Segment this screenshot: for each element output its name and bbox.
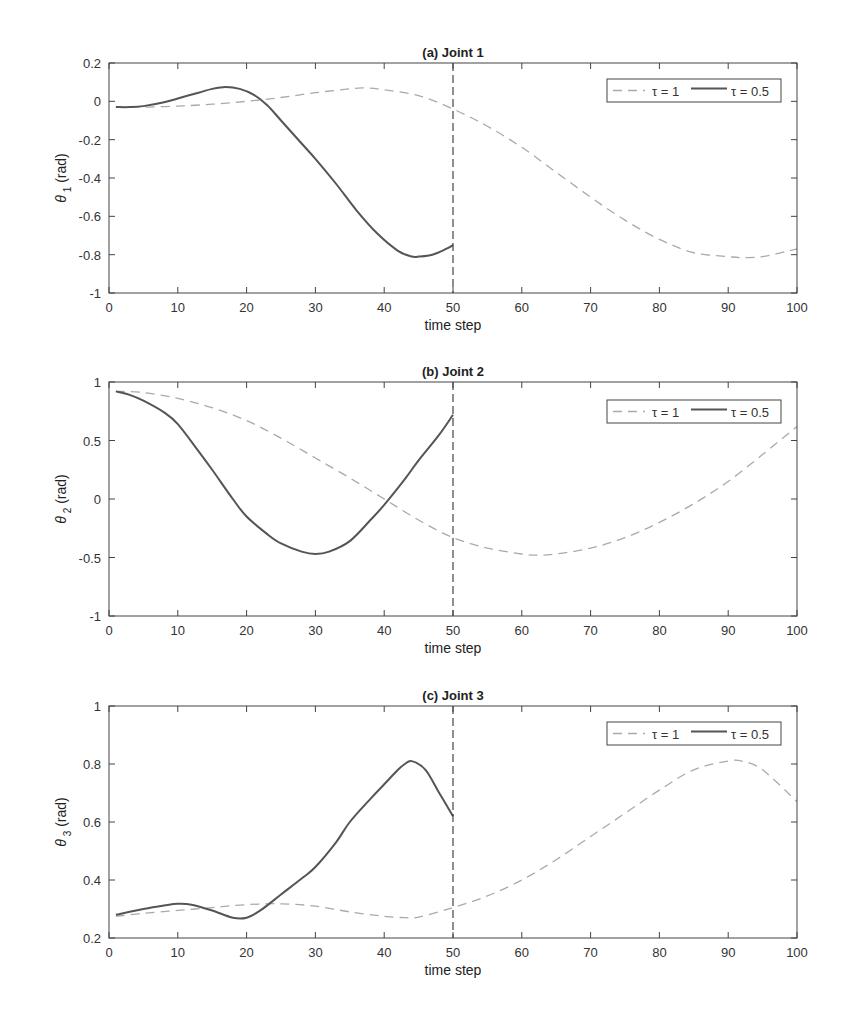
x-tick-label: 50 bbox=[446, 945, 460, 960]
x-tick-label: 70 bbox=[583, 623, 597, 638]
legend-label-tau-0.5: τ = 0.5 bbox=[731, 727, 769, 742]
y-tick-label: -0.2 bbox=[79, 133, 101, 148]
x-tick-label: 40 bbox=[377, 945, 391, 960]
series-tau-0.5-line bbox=[116, 761, 453, 919]
y-tick-label: -0.4 bbox=[79, 171, 101, 186]
y-tick-label: -0.8 bbox=[79, 248, 101, 263]
series-tau-1-line bbox=[116, 88, 797, 258]
y-axis-label: θ 1 (rad) bbox=[53, 153, 73, 202]
x-axis-label: time step bbox=[425, 317, 482, 333]
y-tick-label: 1 bbox=[94, 699, 101, 714]
y-tick-label: 0.8 bbox=[83, 757, 101, 772]
x-tick-label: 60 bbox=[515, 623, 529, 638]
x-tick-label: 30 bbox=[308, 945, 322, 960]
chart-title: (a) Joint 1 bbox=[422, 45, 483, 60]
y-tick-label: -0.6 bbox=[79, 209, 101, 224]
x-tick-label: 100 bbox=[786, 945, 808, 960]
y-tick-label: 0.6 bbox=[83, 815, 101, 830]
legend-label-tau-0.5: τ = 0.5 bbox=[731, 405, 769, 420]
x-tick-label: 70 bbox=[583, 300, 597, 315]
y-tick-label: 0.4 bbox=[83, 873, 101, 888]
x-tick-label: 0 bbox=[105, 945, 112, 960]
x-tick-label: 10 bbox=[171, 945, 185, 960]
series-tau-0.5-line bbox=[116, 391, 453, 554]
x-tick-label: 80 bbox=[652, 300, 666, 315]
x-axis-label: time step bbox=[425, 640, 482, 656]
legend-label-tau-1: τ = 1 bbox=[652, 84, 679, 99]
legend-label-tau-0.5: τ = 0.5 bbox=[731, 84, 769, 99]
x-tick-label: 30 bbox=[308, 623, 322, 638]
y-tick-label: -0.5 bbox=[79, 551, 101, 566]
y-axis-label: θ 2 (rad) bbox=[53, 474, 73, 523]
x-tick-label: 80 bbox=[652, 945, 666, 960]
chart-joint-2: (b) Joint 20102030405060708090100-1-0.50… bbox=[53, 364, 808, 656]
x-tick-label: 20 bbox=[239, 300, 253, 315]
x-tick-label: 40 bbox=[377, 300, 391, 315]
y-tick-label: 0.2 bbox=[83, 931, 101, 946]
x-tick-label: 90 bbox=[721, 945, 735, 960]
series-tau-1-line bbox=[116, 760, 797, 918]
figure: (a) Joint 10102030405060708090100-1-0.8-… bbox=[0, 0, 853, 1023]
legend-label-tau-1: τ = 1 bbox=[652, 727, 679, 742]
legend: τ = 1τ = 0.5 bbox=[607, 400, 781, 423]
x-tick-label: 100 bbox=[786, 623, 808, 638]
x-tick-label: 0 bbox=[105, 300, 112, 315]
x-tick-label: 90 bbox=[721, 623, 735, 638]
legend: τ = 1τ = 0.5 bbox=[607, 722, 781, 745]
y-tick-label: 0 bbox=[94, 94, 101, 109]
x-tick-label: 50 bbox=[446, 623, 460, 638]
x-tick-label: 60 bbox=[515, 300, 529, 315]
x-tick-label: 0 bbox=[105, 623, 112, 638]
x-axis-label: time step bbox=[425, 962, 482, 978]
y-axis-label: θ 3 (rad) bbox=[53, 797, 73, 846]
x-tick-label: 10 bbox=[171, 623, 185, 638]
y-tick-label: -1 bbox=[89, 286, 101, 301]
y-tick-label: 0.2 bbox=[83, 56, 101, 71]
y-tick-label: -1 bbox=[89, 609, 101, 624]
y-tick-label: 0 bbox=[94, 492, 101, 507]
legend-label-tau-1: τ = 1 bbox=[652, 405, 679, 420]
x-tick-label: 30 bbox=[308, 300, 322, 315]
chart-joint-3: (c) Joint 301020304050607080901000.20.40… bbox=[53, 688, 808, 978]
x-tick-label: 90 bbox=[721, 300, 735, 315]
chart-title: (c) Joint 3 bbox=[422, 688, 483, 703]
series-tau-0.5-line bbox=[116, 87, 453, 257]
x-tick-label: 80 bbox=[652, 623, 666, 638]
x-tick-label: 50 bbox=[446, 300, 460, 315]
x-tick-label: 40 bbox=[377, 623, 391, 638]
x-tick-label: 100 bbox=[786, 300, 808, 315]
x-tick-label: 20 bbox=[239, 945, 253, 960]
x-tick-label: 70 bbox=[583, 945, 597, 960]
y-tick-label: 0.5 bbox=[83, 434, 101, 449]
x-tick-label: 10 bbox=[171, 300, 185, 315]
chart-title: (b) Joint 2 bbox=[422, 364, 484, 379]
legend: τ = 1τ = 0.5 bbox=[607, 79, 781, 102]
x-tick-label: 60 bbox=[515, 945, 529, 960]
x-tick-label: 20 bbox=[239, 623, 253, 638]
y-tick-label: 1 bbox=[94, 375, 101, 390]
chart-joint-1: (a) Joint 10102030405060708090100-1-0.8-… bbox=[53, 45, 808, 333]
